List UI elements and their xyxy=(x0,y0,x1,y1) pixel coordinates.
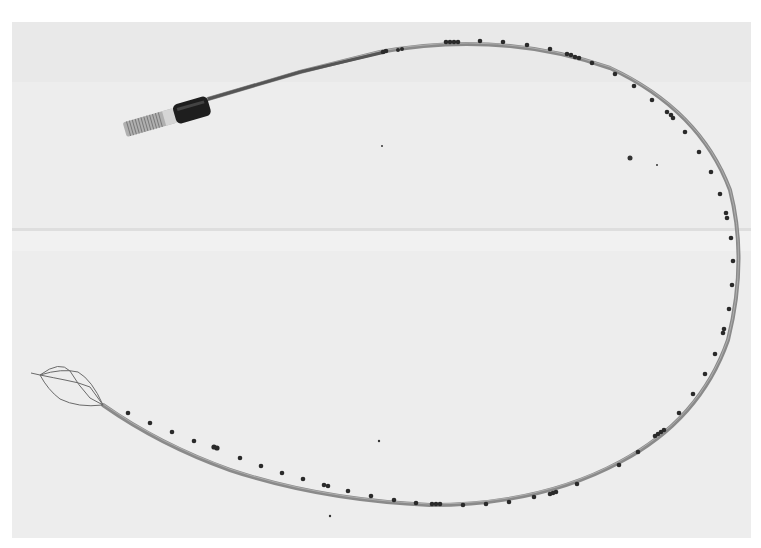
background xyxy=(12,22,751,538)
background-seam xyxy=(12,228,751,231)
photo-frame xyxy=(0,0,761,548)
catheter-photograph xyxy=(12,22,751,538)
catheter-illustration xyxy=(0,0,761,548)
